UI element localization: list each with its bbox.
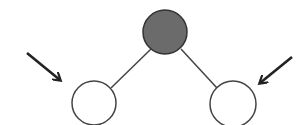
left-child-node xyxy=(72,81,116,125)
edge-root-left xyxy=(111,49,151,88)
diagram-svg xyxy=(0,0,308,125)
edge-root-right xyxy=(181,49,217,88)
right-child-node xyxy=(210,81,256,125)
root-node xyxy=(143,10,187,54)
tree-diagram xyxy=(0,0,308,125)
right-arrow-icon xyxy=(260,57,292,83)
left-arrow-icon xyxy=(27,53,60,80)
